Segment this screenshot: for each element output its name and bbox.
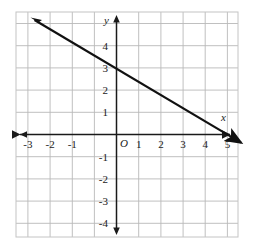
y-tick-label: -1	[99, 151, 108, 163]
x-tick-label: 3	[180, 138, 186, 150]
x-tick-label: -2	[46, 138, 55, 150]
y-tick-label: 4	[103, 40, 109, 52]
graph-canvas: -3 -2 -1 1 2 3 4 5 4 3 2 1 -1 -2 -3 -4 O…	[0, 0, 253, 249]
y-tick-label: 3	[103, 62, 109, 74]
y-tick-label: -2	[99, 173, 108, 185]
x-tick-label: 2	[158, 138, 164, 150]
y-axis-label: y	[103, 14, 109, 26]
x-tick-label: 5	[225, 138, 231, 150]
x-tick-label: -1	[68, 138, 77, 150]
y-tick-label: -3	[99, 195, 109, 207]
coordinate-plane-figure: -3 -2 -1 1 2 3 4 5 4 3 2 1 -1 -2 -3 -4 O…	[0, 0, 253, 249]
y-tick-label: -4	[99, 217, 109, 229]
x-axis-label: x	[220, 111, 226, 123]
y-tick-label: 1	[103, 106, 109, 118]
x-tick-label: 4	[202, 138, 208, 150]
x-tick-label: 1	[136, 138, 142, 150]
y-tick-label: 2	[103, 84, 109, 96]
origin-label: O	[120, 137, 128, 149]
x-tick-label: -3	[23, 138, 33, 150]
